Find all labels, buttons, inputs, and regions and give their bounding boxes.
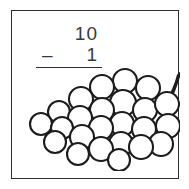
subtrahend-value: 1 <box>36 44 102 66</box>
grape-berry <box>155 92 179 116</box>
grape-berry <box>108 149 130 171</box>
grape-berry <box>129 135 153 159</box>
grape-cluster-svg <box>22 66 180 171</box>
grape-berry <box>67 143 89 165</box>
grape-berry <box>44 131 66 153</box>
minuend-value: 10 <box>36 23 102 45</box>
grape-cluster-illustration <box>22 66 180 171</box>
grape-berry <box>30 113 52 135</box>
grape-berry <box>90 75 114 99</box>
worksheet-card: 10 – 1 <box>0 0 189 189</box>
card-frame: 10 – 1 <box>11 10 179 179</box>
